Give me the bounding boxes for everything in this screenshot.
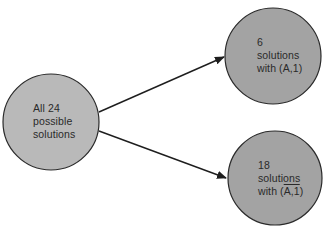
top-node-line-1: 6	[257, 36, 302, 49]
source-node-line-3: solutions	[33, 128, 75, 141]
arrow-to-top-node	[99, 57, 224, 112]
top-node-line-2: solutions	[257, 49, 302, 62]
bottom-node-line-2: solutions	[258, 172, 303, 185]
top-node-label: 6 solutions with (A,1)	[257, 36, 302, 75]
bottom-node-label: 18 solutions with (A,1)	[258, 159, 303, 198]
bottom-node-line-3-suffix: )	[300, 185, 304, 197]
source-node-line-2: possible	[33, 115, 75, 128]
arrow-to-bottom-node	[99, 131, 226, 178]
source-node-line-1: All 24	[33, 102, 75, 115]
top-node-line-3: with (A,1)	[257, 62, 302, 75]
source-node-label: All 24 possible solutions	[33, 102, 75, 141]
bottom-node-line-3: with (A,1)	[258, 185, 303, 198]
bottom-node-line-1: 18	[258, 159, 303, 172]
bottom-node-line-3-prefix: with (	[258, 185, 284, 197]
bottom-node-line-3-negated: A,1	[284, 185, 300, 197]
